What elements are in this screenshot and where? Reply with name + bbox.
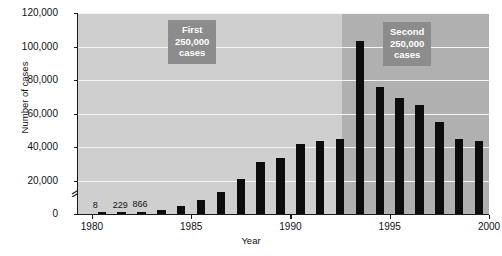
bar: [237, 179, 246, 214]
bar: [435, 122, 444, 214]
x-tick-label: 1980: [67, 221, 117, 232]
x-tick-mark: [489, 215, 490, 219]
y-tick-label: 20,000: [2, 175, 58, 186]
gridline: [78, 114, 489, 115]
bar: [415, 105, 424, 214]
annotation-second-line-1: Second: [390, 26, 424, 38]
bar: [296, 144, 305, 214]
y-tick-label: 0: [2, 208, 58, 219]
bar: [395, 98, 404, 214]
annotation-first-line-2: 250,000: [175, 36, 209, 48]
annotation-second-line-3: cases: [390, 49, 424, 61]
y-axis-ticks: 020,00040,00060,00080,000100,000120,000: [0, 0, 74, 256]
bar: [356, 41, 365, 214]
bar: [177, 206, 186, 214]
gridline: [78, 147, 489, 148]
x-tick-mark: [92, 215, 93, 219]
bar-value-label: 8: [93, 200, 98, 210]
y-tick-label: 100,000: [2, 41, 58, 52]
bar: [455, 139, 464, 214]
annotation-second-line-2: 250,000: [390, 38, 424, 50]
x-tick-mark: [191, 215, 192, 219]
x-tick-mark: [390, 215, 391, 219]
annotation-first-250k: First 250,000 cases: [168, 20, 216, 64]
y-tick-label: 120,000: [2, 7, 58, 18]
bar-value-label: 866: [133, 199, 148, 209]
x-tick-mark: [290, 215, 291, 219]
annotation-second-250k: Second 250,000 cases: [383, 22, 431, 66]
gridline: [78, 13, 489, 14]
annotation-first-line-3: cases: [175, 47, 209, 59]
annotation-first-line-1: First: [175, 24, 209, 36]
bar: [256, 162, 265, 214]
x-tick-label: 2000: [464, 221, 502, 232]
x-axis-line: [77, 214, 489, 215]
bar-value-label: 229: [113, 200, 128, 210]
x-tick-label: 1985: [166, 221, 216, 232]
bar: [276, 158, 285, 214]
bar: [376, 87, 385, 214]
x-axis-title: Year: [0, 235, 502, 246]
y-tick-label: 40,000: [2, 141, 58, 152]
x-tick-label: 1995: [365, 221, 415, 232]
bar: [475, 141, 484, 214]
bar-chart-figure: Number of cases 020,00040,00060,00080,00…: [0, 0, 502, 256]
gridline: [78, 80, 489, 81]
bar: [336, 139, 345, 214]
bar: [217, 192, 226, 214]
bar: [197, 200, 206, 214]
y-tick-label: 60,000: [2, 108, 58, 119]
bar: [316, 141, 325, 214]
x-tick-label: 1990: [265, 221, 315, 232]
y-tick-label: 80,000: [2, 74, 58, 85]
